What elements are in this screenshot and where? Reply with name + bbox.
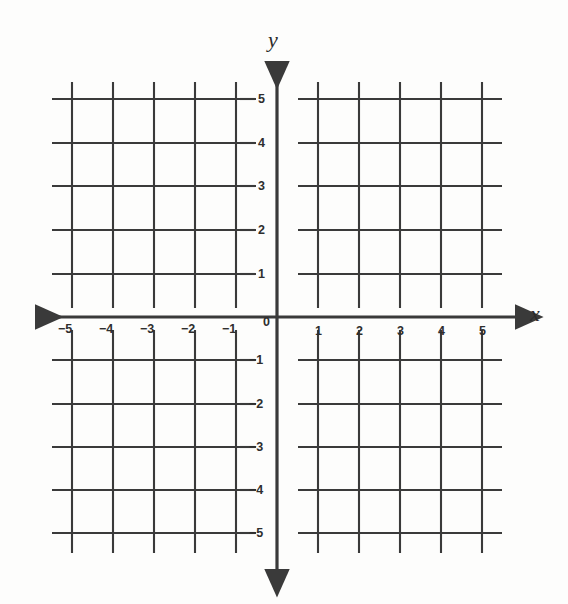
- x-tick-label-3: 3: [397, 325, 404, 338]
- x-tick-label--1: −1: [222, 323, 236, 336]
- y-tick-label-4: 4: [258, 137, 265, 150]
- y-tick-label--2: −2: [249, 398, 263, 411]
- gridlines-quadrant-4: [298, 330, 502, 553]
- coordinate-plane-svg: [0, 0, 568, 604]
- x-tick-label--3: −3: [140, 323, 154, 336]
- origin-label: 0: [263, 316, 270, 329]
- x-tick-label--5: −5: [58, 323, 72, 336]
- y-tick-label-3: 3: [258, 180, 265, 193]
- x-tick-label--2: −2: [181, 323, 195, 336]
- x-tick-label-4: 4: [438, 325, 445, 338]
- gridlines-quadrant-1: [298, 82, 502, 308]
- y-tick-label--3: −3: [249, 441, 263, 454]
- coordinate-grid-figure: −5 −4 −3 −2 −1 1 2 3 4 5 0 5 4 3 2 1 −1 …: [0, 0, 568, 604]
- gridlines-quadrant-3: [52, 330, 256, 553]
- x-axis-label: x: [530, 303, 540, 325]
- x-tick-label--4: −4: [99, 323, 113, 336]
- y-tick-label--1: −1: [249, 354, 263, 367]
- y-tick-label-2: 2: [258, 224, 265, 237]
- y-tick-label--5: −5: [249, 527, 263, 540]
- y-axis-label: y: [268, 29, 278, 51]
- x-tick-label-2: 2: [356, 325, 363, 338]
- y-tick-label-5: 5: [258, 93, 265, 106]
- y-tick-label--4: −4: [249, 484, 263, 497]
- x-tick-label-5: 5: [479, 325, 486, 338]
- x-tick-label-1: 1: [315, 325, 322, 338]
- y-tick-label-1: 1: [258, 268, 265, 281]
- gridlines-quadrant-2: [52, 82, 256, 308]
